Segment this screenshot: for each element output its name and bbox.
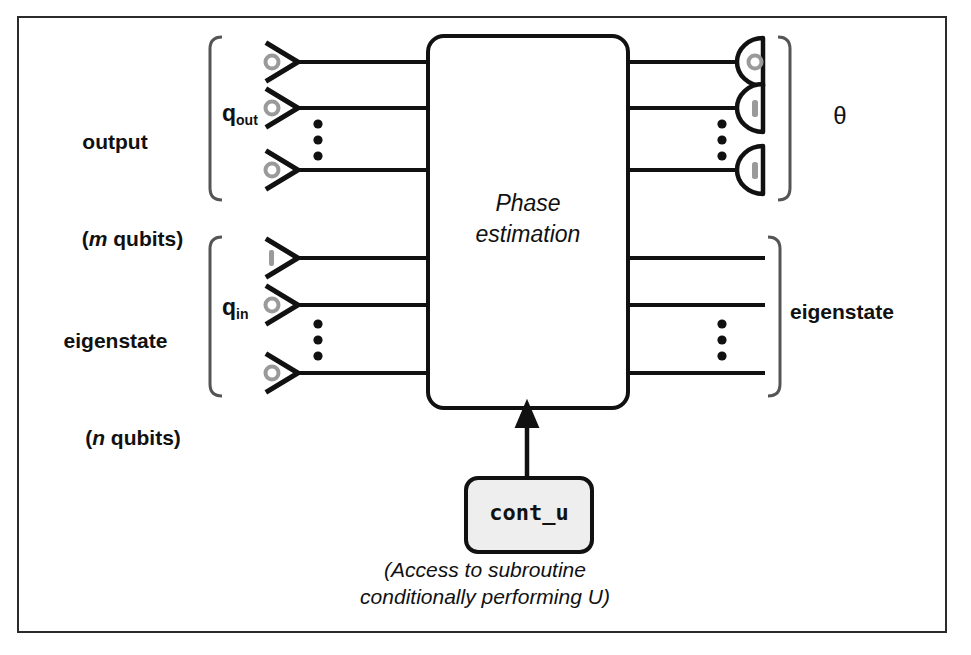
q-out-base: q	[222, 100, 236, 126]
right-bracket-measure	[778, 37, 790, 200]
ellipsis-measure-right	[717, 119, 726, 160]
ellipsis-eigenstate-left	[313, 319, 322, 360]
ket-input-in-1	[266, 287, 299, 323]
ket-input-in-2	[266, 355, 299, 391]
phase-estimation-line2: estimation	[428, 219, 628, 250]
output-label-line2: (m qubits)	[30, 203, 200, 275]
figure-root: output (m qubits) eigenstate (n qubits) …	[0, 0, 971, 655]
eigenstate-output-label: eigenstate	[790, 300, 960, 324]
cont-u-label: cont_u	[468, 500, 590, 525]
right-bracket-eigenstate	[768, 237, 780, 396]
ket-input-out-1	[266, 90, 299, 126]
q-out-sub: out	[236, 112, 258, 128]
eigenstate-group-label: eigenstate (n qubits)	[18, 281, 213, 522]
detector-0[interactable]	[737, 38, 763, 86]
ellipsis-output-left	[313, 119, 322, 160]
output-qubit-count-symbol: m	[89, 227, 108, 250]
ket-input-in-0	[268, 240, 298, 276]
detector-1[interactable]	[737, 84, 763, 132]
register-label-q-out: qout	[222, 100, 258, 126]
output-label-line1: output	[30, 130, 200, 154]
eigenstate-label-line1: eigenstate	[18, 329, 213, 353]
phase-estimation-label: Phase estimation	[428, 188, 628, 250]
detector-2[interactable]	[737, 146, 763, 194]
theta-result-label: θ	[820, 102, 860, 130]
eigenstate-qubit-count-symbol: n	[92, 426, 105, 449]
q-in-sub: in	[236, 306, 248, 322]
caption-line2: conditionally performing U)	[265, 583, 705, 610]
eigenstate-label-line2: (n qubits)	[18, 402, 213, 474]
phase-estimation-line1: Phase	[428, 188, 628, 219]
register-label-q-in: qin	[222, 294, 249, 320]
left-bracket-output	[210, 37, 222, 200]
q-in-base: q	[222, 294, 236, 320]
caption-line1: (Access to subroutine	[265, 556, 705, 583]
ellipsis-eigenstate-right	[717, 319, 726, 360]
figure-caption: (Access to subroutine conditionally perf…	[265, 556, 705, 611]
ket-input-out-0	[266, 44, 299, 80]
ket-input-out-2	[266, 152, 299, 188]
